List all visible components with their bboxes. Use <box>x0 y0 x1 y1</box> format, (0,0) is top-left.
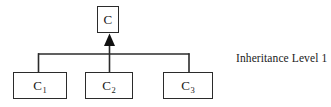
class-node-c2-label: C2 <box>102 79 115 92</box>
class-node-c2-base: C <box>102 78 111 93</box>
class-node-c1-base: C <box>33 78 42 93</box>
inheritance-diagram: C C1 C2 C3 Inheritance Level 1 <box>0 0 331 107</box>
class-node-c1[interactable]: C1 <box>13 72 67 99</box>
inheritance-arrowhead-icon <box>104 34 115 47</box>
class-node-c1-label: C1 <box>33 79 46 92</box>
class-node-c3-label: C3 <box>181 79 194 92</box>
class-node-c3[interactable]: C3 <box>163 72 213 99</box>
class-node-c3-base: C <box>181 78 190 93</box>
class-node-c1-subscript: 1 <box>43 85 47 95</box>
class-node-root-label: C <box>104 13 113 26</box>
class-node-c2-subscript: 2 <box>112 85 116 95</box>
inheritance-level-annotation: Inheritance Level 1 <box>236 52 327 64</box>
class-node-root[interactable]: C <box>97 6 119 33</box>
class-node-c2[interactable]: C2 <box>85 72 133 99</box>
class-node-c3-subscript: 3 <box>191 85 195 95</box>
